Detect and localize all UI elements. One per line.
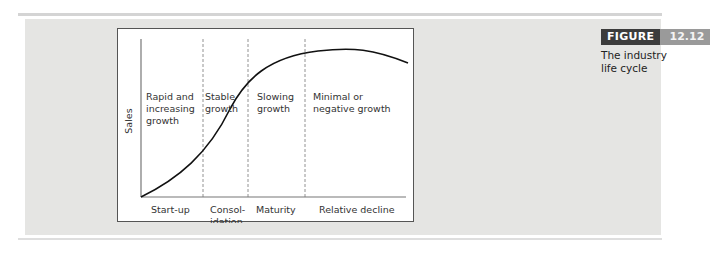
figure-number: 12.12 (660, 29, 710, 45)
life-cycle-chart: Sales Rapid andincreasinggrowth Stablegr… (118, 29, 415, 223)
stage-desc-4: Minimal ornegative growth (313, 91, 391, 114)
stage-desc-1: Rapid andincreasinggrowth (146, 91, 195, 126)
stage-name-3: Maturity (256, 204, 296, 215)
stage-name-1: Start-up (151, 204, 190, 215)
stage-name-2: Consol-idation (210, 204, 245, 223)
figure-tag: FIGURE 12.12 (601, 29, 710, 45)
stage-desc-3: Slowinggrowth (257, 91, 294, 114)
sales-curve (141, 49, 408, 197)
stage-desc-2: Stablegrowth (205, 91, 238, 114)
figure-caption: The industry life cycle (601, 49, 671, 75)
top-rule (18, 13, 662, 16)
diagram-box: Sales Rapid andincreasinggrowth Stablegr… (117, 28, 414, 222)
y-axis-label: Sales (123, 108, 134, 133)
bottom-rule (18, 238, 662, 240)
figure-label: FIGURE (601, 29, 660, 45)
stage-name-4: Relative decline (319, 204, 395, 215)
